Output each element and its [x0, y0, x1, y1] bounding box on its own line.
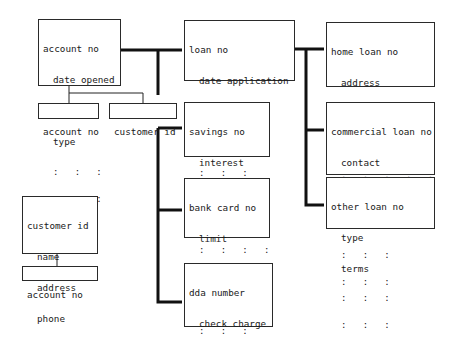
field: phone — [27, 314, 97, 324]
savings-key: savings no — [189, 127, 269, 137]
home-loan-key: home loan no — [331, 47, 434, 57]
field: type — [331, 233, 434, 243]
ellipsis-dots: : : : — [43, 170, 120, 175]
field: interest — [189, 158, 269, 168]
customer-record: customer id name address phone : : : : :… — [22, 196, 98, 254]
field: limit — [189, 234, 269, 244]
savings-record: savings no interest min balance : : : : … — [184, 102, 270, 157]
field: date opened — [43, 75, 120, 85]
field: terms — [331, 264, 434, 274]
account-record: account no date opened domicile type : :… — [38, 19, 121, 86]
account-ref-record: account no — [38, 103, 99, 119]
ellipsis-dots: : : : — [331, 296, 434, 301]
field: name — [27, 252, 97, 262]
loan-record: loan no date application type officer : … — [184, 20, 295, 81]
dda-key: dda number — [189, 288, 272, 298]
customer-account-ref-record: account no — [22, 266, 98, 281]
customer-account-ref-key: account no — [27, 290, 97, 300]
customer-ref-key: customer id — [114, 127, 176, 137]
commercial-loan-record: commercial loan no contact phone limit :… — [326, 102, 435, 175]
field: date application — [189, 76, 294, 86]
home-loan-record: home loan no address appraisal other fin… — [326, 22, 435, 87]
loan-key: loan no — [189, 45, 294, 55]
dda-record: dda number check charge monthly charge b… — [184, 263, 273, 327]
field: address — [331, 78, 434, 88]
bank-card-key: bank card no — [189, 203, 269, 213]
account-key: account no — [43, 44, 120, 54]
customer-key: customer id — [27, 221, 97, 231]
ellipsis-dots: : : : — [331, 323, 434, 328]
field: contact — [331, 158, 434, 168]
other-loan-record: other loan no type terms : : : : : : — [326, 177, 435, 229]
bank-card-record: bank card no limit linked accts? card fe… — [184, 178, 270, 238]
account-ref-key: account no — [43, 127, 98, 137]
customer-ref-record: customer id — [109, 103, 177, 119]
field: check charge — [189, 319, 272, 329]
other-loan-key: other loan no — [331, 202, 434, 212]
commercial-loan-key: commercial loan no — [331, 127, 434, 137]
